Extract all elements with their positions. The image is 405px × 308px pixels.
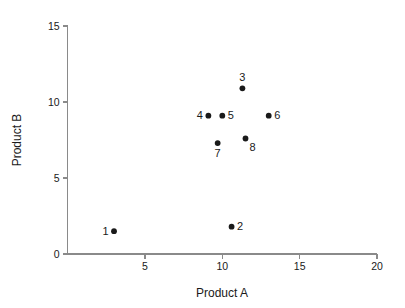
data-point-marker <box>215 140 221 146</box>
data-point-label: 6 <box>274 109 280 121</box>
x-axis-title: Product A <box>196 286 248 300</box>
data-point-marker <box>219 113 225 119</box>
y-tick-label: 15 <box>48 20 60 32</box>
x-tick-label: 20 <box>371 260 383 272</box>
data-point-marker <box>205 113 211 119</box>
y-axis-ticks: 051015 <box>48 20 68 260</box>
data-point-marker <box>243 136 249 142</box>
plot-area: 051015 5101520 12345678 Product A Produc… <box>0 0 405 308</box>
y-tick-label: 10 <box>48 96 60 108</box>
data-point-marker <box>266 113 272 119</box>
x-tick-label: 10 <box>216 260 228 272</box>
data-point-marker <box>229 224 235 230</box>
data-point-label: 3 <box>239 71 245 83</box>
data-point-label: 7 <box>215 147 221 159</box>
y-axis-title: Product B <box>10 114 24 167</box>
y-tick-label: 0 <box>54 248 60 260</box>
data-point-marker <box>240 85 246 91</box>
data-point-label: 2 <box>237 220 243 232</box>
x-tick-label: 5 <box>142 260 148 272</box>
data-points: 12345678 <box>102 71 280 237</box>
data-point-label: 1 <box>102 225 108 237</box>
data-point-label: 5 <box>228 109 234 121</box>
scatter-chart: 051015 5101520 12345678 Product A Produc… <box>0 0 405 308</box>
data-point-label: 8 <box>250 141 256 153</box>
data-point-marker <box>111 228 117 234</box>
x-tick-label: 15 <box>294 260 306 272</box>
x-axis-ticks: 5101520 <box>142 254 383 272</box>
data-point-label: 4 <box>197 109 203 121</box>
y-tick-label: 5 <box>54 172 60 184</box>
